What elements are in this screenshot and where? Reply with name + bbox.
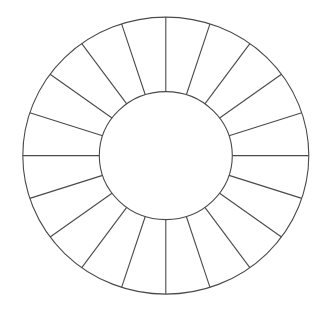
segment-divider (30, 175, 103, 198)
segment-divider (122, 24, 146, 95)
segment-divider (186, 216, 210, 287)
segment-divider (30, 113, 103, 136)
segment-divider (205, 207, 250, 267)
segment-divider (122, 216, 146, 287)
inner-circle (99, 92, 232, 220)
segment-divider (50, 193, 112, 237)
segment-divider (229, 175, 302, 198)
segment-divider (229, 113, 302, 136)
segment-divider (220, 74, 282, 118)
segment-divider (82, 44, 127, 104)
segment-divider (82, 207, 127, 267)
segment-divider (220, 193, 282, 237)
segment-divider (205, 44, 250, 104)
segment-divider (186, 24, 210, 95)
ring-svg (0, 0, 321, 311)
segment-divider (50, 74, 112, 118)
segmented-ring-diagram (0, 0, 321, 311)
